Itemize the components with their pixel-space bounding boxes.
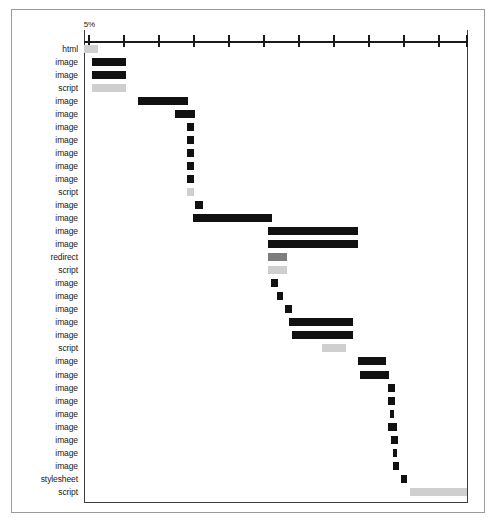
bar-image-28 bbox=[390, 410, 394, 418]
bar-image-15 bbox=[268, 240, 358, 248]
row-label-image-9: image bbox=[55, 161, 78, 171]
row-label-image-25: image bbox=[55, 370, 78, 380]
row-label-html-0: html bbox=[62, 44, 78, 54]
bar-script-11 bbox=[187, 188, 194, 196]
bar-image-7 bbox=[187, 136, 194, 144]
axis-tick-7 bbox=[333, 35, 335, 47]
bar-image-1 bbox=[92, 58, 126, 66]
bar-image-19 bbox=[277, 292, 283, 300]
axis-tick-8 bbox=[368, 35, 370, 47]
bar-image-14 bbox=[268, 227, 358, 235]
row-label-image-4: image bbox=[55, 96, 78, 106]
row-label-image-6: image bbox=[55, 122, 78, 132]
row-label-script-34: script bbox=[58, 487, 78, 497]
row-label-script-17: script bbox=[58, 265, 78, 275]
row-label-image-27: image bbox=[55, 396, 78, 406]
bar-image-4 bbox=[138, 97, 188, 105]
bar-image-9 bbox=[187, 162, 194, 170]
axis-tick-1 bbox=[123, 35, 125, 47]
axis-tick-5 bbox=[263, 35, 265, 47]
row-label-image-22: image bbox=[55, 330, 78, 340]
bar-image-24 bbox=[358, 357, 386, 365]
bar-stylesheet-33 bbox=[401, 475, 407, 483]
row-label-image-28: image bbox=[55, 409, 78, 419]
axis-tick-label-5pct: 5% bbox=[84, 20, 95, 29]
bar-image-31 bbox=[393, 449, 397, 457]
bar-html-0 bbox=[84, 45, 98, 53]
bar-image-26 bbox=[388, 384, 395, 392]
bar-image-6 bbox=[187, 123, 194, 131]
bar-image-25 bbox=[360, 371, 389, 379]
bar-script-23 bbox=[322, 344, 346, 352]
bar-image-30 bbox=[391, 436, 398, 444]
row-label-script-23: script bbox=[58, 343, 78, 353]
row-label-image-7: image bbox=[55, 135, 78, 145]
row-label-script-11: script bbox=[58, 187, 78, 197]
bar-redirect-16 bbox=[268, 253, 287, 261]
row-label-image-12: image bbox=[55, 200, 78, 210]
bar-script-17 bbox=[268, 266, 287, 274]
bar-script-34 bbox=[410, 488, 467, 496]
row-label-image-14: image bbox=[55, 226, 78, 236]
row-label-image-32: image bbox=[55, 461, 78, 471]
row-label-image-20: image bbox=[55, 304, 78, 314]
bar-image-5 bbox=[175, 110, 195, 118]
row-label-image-26: image bbox=[55, 383, 78, 393]
row-label-script-3: script bbox=[58, 83, 78, 93]
axis-tick-11 bbox=[466, 35, 468, 47]
row-label-image-31: image bbox=[55, 448, 78, 458]
row-label-image-30: image bbox=[55, 435, 78, 445]
bar-image-27 bbox=[388, 397, 395, 405]
bar-image-2 bbox=[92, 71, 126, 79]
top-axis-line bbox=[84, 41, 468, 43]
axis-tick-6 bbox=[298, 35, 300, 47]
bar-image-22 bbox=[292, 331, 353, 339]
row-label-stylesheet-33: stylesheet bbox=[41, 474, 78, 484]
row-label-image-5: image bbox=[55, 109, 78, 119]
row-label-image-21: image bbox=[55, 317, 78, 327]
axis-tick-9 bbox=[403, 35, 405, 47]
bar-image-13 bbox=[193, 214, 272, 222]
bar-image-32 bbox=[393, 462, 399, 470]
row-label-image-29: image bbox=[55, 422, 78, 432]
row-label-image-24: image bbox=[55, 356, 78, 366]
bar-image-18 bbox=[271, 279, 278, 287]
waterfall-chart-figure: 5% htmlimageimagescriptimageimageimageim… bbox=[0, 0, 497, 523]
row-label-image-8: image bbox=[55, 148, 78, 158]
axis-tick-2 bbox=[158, 35, 160, 47]
row-label-image-18: image bbox=[55, 278, 78, 288]
row-label-image-13: image bbox=[55, 213, 78, 223]
row-label-image-1: image bbox=[55, 57, 78, 67]
bar-image-12 bbox=[195, 201, 203, 209]
row-label-image-19: image bbox=[55, 291, 78, 301]
bar-image-20 bbox=[285, 305, 292, 313]
axis-tick-10 bbox=[438, 35, 440, 47]
bar-image-21 bbox=[289, 318, 353, 326]
bar-script-3 bbox=[92, 84, 126, 92]
row-label-image-10: image bbox=[55, 174, 78, 184]
row-label-image-2: image bbox=[55, 70, 78, 80]
bar-image-10 bbox=[187, 175, 194, 183]
axis-tick-3 bbox=[193, 35, 195, 47]
bar-image-8 bbox=[187, 149, 194, 157]
row-label-redirect-16: redirect bbox=[50, 252, 78, 262]
axis-tick-4 bbox=[228, 35, 230, 47]
row-label-image-15: image bbox=[55, 239, 78, 249]
bar-image-29 bbox=[388, 423, 397, 431]
